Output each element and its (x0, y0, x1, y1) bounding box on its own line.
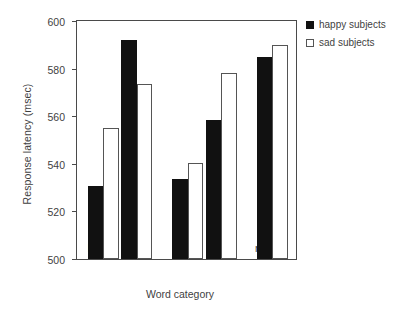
bar-neg-happy-subjects (206, 120, 222, 259)
legend-item-label: sad subjects (319, 35, 375, 50)
bar-chart-figure: Response latency (msec) 5005205405605806… (0, 0, 410, 312)
bar-neutral-happy-subjects (257, 57, 273, 259)
y-axis-title: Response latency (msec) (21, 54, 33, 234)
bar-happy-happy-subjects (88, 186, 104, 259)
y-axis-tick-label: 580 (47, 64, 65, 76)
y-axis-tick: 500 (72, 259, 77, 260)
open-square-icon (306, 39, 314, 47)
legend-item: happy subjects (306, 17, 386, 32)
x-axis-title: Word category (60, 288, 300, 300)
bar-sad-sad-subjects (137, 84, 153, 259)
y-axis-tick-label: 540 (47, 159, 65, 171)
chart-legend: happy subjectssad subjects (306, 17, 386, 53)
filled-square-icon (306, 21, 314, 29)
plot-area: 500520540560580600 (76, 20, 297, 260)
legend-item: sad subjects (306, 35, 386, 50)
y-axis-tick-label: 500 (47, 254, 65, 266)
bar-sad-happy-subjects (121, 40, 137, 259)
legend-item-label: happy subjects (319, 17, 386, 32)
bar-happy-sad-subjects (103, 128, 119, 259)
bar-neg-sad-subjects (221, 73, 237, 259)
bar-series-container (77, 21, 296, 259)
bar-pos-happy-subjects (172, 179, 188, 259)
y-axis-tick-label: 520 (47, 206, 65, 218)
y-axis-tick-label: 600 (47, 16, 65, 28)
y-axis-tick-label: 560 (47, 111, 65, 123)
bar-pos-sad-subjects (188, 163, 204, 259)
bar-neutral-sad-subjects (272, 45, 288, 259)
